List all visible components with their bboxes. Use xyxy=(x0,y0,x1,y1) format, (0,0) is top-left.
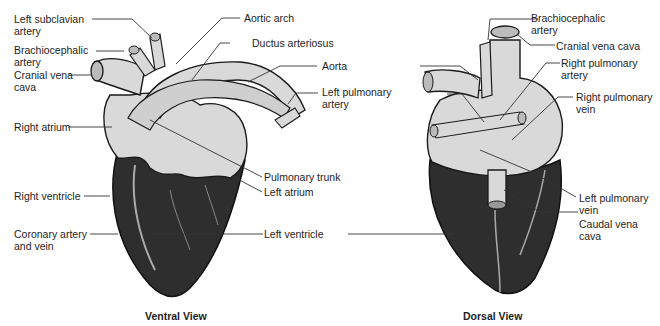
dorsal-brachiocephalic xyxy=(480,42,492,98)
vessel-opening xyxy=(430,125,438,137)
label-coronary-artery-and-vein: Coronary artery and vein xyxy=(14,228,87,252)
vessel-opening xyxy=(423,72,433,92)
label-right-pulmonary-vein: Right pulmonary vein xyxy=(576,91,652,115)
vessel-opening xyxy=(518,112,526,124)
label-dorsal-cranial-vena-cava: Cranial vena cava xyxy=(556,40,640,52)
label-ductus-arteriosus: Ductus arteriosus xyxy=(252,37,334,49)
vessel-opening xyxy=(91,61,103,81)
dorsal-atria xyxy=(427,40,562,176)
label-aorta: Aorta xyxy=(322,60,347,72)
caption-ventral-view: Ventral View xyxy=(145,310,207,322)
vessel-opening xyxy=(488,201,506,209)
label-left-pulmonary-vein: Left pulmonary vein xyxy=(579,192,648,216)
label-pulmonary-trunk: Pulmonary trunk xyxy=(264,171,340,183)
label-cranial-vena-cava: Cranial vena cava xyxy=(14,69,73,93)
label-left-subclavian-artery: Left subclavian artery xyxy=(14,13,84,37)
label-left-pulmonary-artery: Left pulmonary artery xyxy=(322,86,391,110)
label-right-atrium: Right atrium xyxy=(14,121,71,133)
label-left-atrium: Left atrium xyxy=(264,186,314,198)
caption-dorsal-view: Dorsal View xyxy=(463,310,522,322)
dorsal-caudal-vena-cava xyxy=(488,170,506,205)
label-right-ventricle: Right ventricle xyxy=(14,190,81,202)
vessel-opening xyxy=(491,26,519,38)
vessel-opening xyxy=(129,46,139,54)
label-right-pulmonary-artery: Right pulmonary artery xyxy=(561,57,637,81)
label-left-ventricle: Left ventricle xyxy=(264,228,324,240)
label-caudal-vena-cava: Caudal vena cava xyxy=(579,218,638,242)
label-brachiocephalic-artery: Brachiocephalic artery xyxy=(14,44,88,68)
label-aortic-arch: Aortic arch xyxy=(244,12,294,24)
label-dorsal-brachiocephalic-artery: Brachiocephalic artery xyxy=(531,12,605,36)
